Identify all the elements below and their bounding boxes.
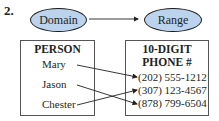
arrow-jason xyxy=(77,85,137,104)
mapping-arrows xyxy=(0,0,219,121)
arrow-chester xyxy=(77,90,137,105)
arrow-mary xyxy=(77,65,137,77)
